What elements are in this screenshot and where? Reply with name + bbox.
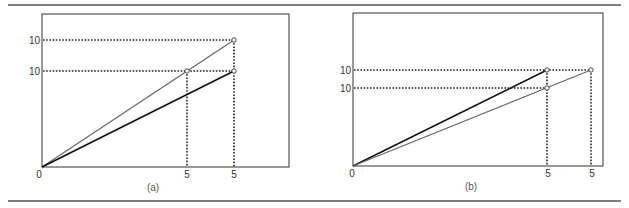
point-marker [545, 86, 549, 90]
y-label-lower: 10 [29, 66, 41, 77]
y-label-lower: 10 [340, 83, 352, 94]
dark-line [353, 70, 547, 166]
point-marker [232, 38, 236, 42]
dark-line [42, 71, 234, 167]
x-label-inner: 5 [184, 169, 190, 180]
panel-a: 10 10 0 5 5 (a) [29, 14, 289, 193]
y-label-upper: 10 [29, 35, 41, 46]
origin-label: 0 [36, 169, 42, 180]
panel-b: 10 10 0 5 5 (b) [340, 13, 603, 192]
origin-label: 0 [349, 168, 355, 179]
figure: 10 10 0 5 5 (a) 10 10 0 5 5 (b) [0, 0, 629, 208]
x-label-outer: 5 [231, 169, 237, 180]
y-label-upper: 10 [340, 65, 352, 76]
point-marker [232, 69, 236, 73]
panel-a-frame [42, 14, 289, 167]
grey-line [42, 40, 234, 167]
point-marker [589, 68, 593, 72]
grey-line [353, 70, 591, 166]
point-marker [185, 69, 189, 73]
panel-b-caption: (b) [465, 181, 477, 192]
point-marker [545, 68, 549, 72]
panel-a-caption: (a) [147, 182, 159, 193]
panel-b-frame [353, 13, 603, 166]
x-label-outer: 5 [589, 168, 595, 179]
x-label-inner: 5 [545, 168, 551, 179]
